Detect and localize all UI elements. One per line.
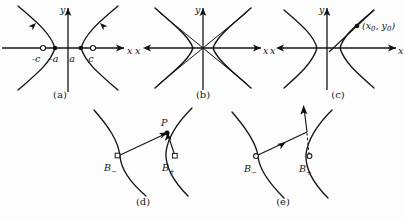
- y-axis-b: [200, 8, 207, 90]
- x-axis-label-left-c: x: [270, 45, 276, 56]
- focus-plus-marker-e: [307, 154, 312, 159]
- x-axis-label-right-b: x: [263, 45, 269, 56]
- focus-minus-label-e: B−: [243, 163, 257, 177]
- point-p-label-d: P: [160, 117, 168, 128]
- figure-root: x y -c -a a c (a): [0, 0, 405, 220]
- tangent-point-label-c: (x0, y0): [362, 20, 395, 33]
- panel-e: B− B+: [228, 104, 378, 200]
- point-p-marker-d: [165, 131, 170, 136]
- panel-caption-e: (e): [263, 196, 303, 207]
- y-axis-label-b: y: [194, 4, 201, 15]
- y-axis-c: [324, 8, 331, 90]
- x-axis-label-left-b: x: [135, 45, 141, 56]
- focus-minus-label-d: B−: [103, 162, 117, 176]
- branch-arrow-left-a: [28, 23, 36, 31]
- panel-b: x x y: [135, 0, 270, 95]
- x-axis-a: [2, 45, 124, 52]
- y-axis-label-a: y: [59, 4, 66, 15]
- panel-caption-c: (c): [318, 89, 358, 100]
- x-axis-b: [143, 45, 261, 52]
- focus-plus-marker-d: [173, 153, 178, 158]
- svg-text:(x0, y0): (x0, y0): [362, 20, 395, 33]
- tangent-line-c: [329, 10, 374, 52]
- focus-minus-marker-e: [254, 154, 259, 159]
- focus-right-label-a: c: [88, 53, 94, 64]
- panel-caption-a: (a): [40, 89, 80, 100]
- vertex-left-marker-a: [53, 46, 58, 51]
- branch-arrow-right-a: [100, 23, 108, 31]
- y-axis-a: [65, 8, 72, 92]
- focus-left-label-a: -c: [32, 53, 41, 64]
- panel-caption-b: (b): [183, 89, 223, 100]
- panel-caption-d: (d): [123, 196, 163, 207]
- focus-plus-label-e: B+: [298, 163, 312, 177]
- focus-left-marker-a: [41, 46, 46, 51]
- focus-minus-marker-d: [115, 153, 120, 158]
- x-axis-label-a: x: [127, 45, 133, 56]
- hyperbola-right-branch-d: [166, 108, 192, 196]
- reflected-ray-arrow-e: [300, 105, 307, 115]
- panel-a: x y -c -a a c: [0, 0, 135, 95]
- y-axis-label-c: y: [318, 4, 325, 15]
- panel-d: P B− B+: [88, 104, 238, 200]
- panel-c: (x0, y0) x x y: [270, 0, 405, 95]
- x-axis-label-right-c: x: [398, 45, 404, 56]
- vertex-right-marker-a: [79, 46, 84, 51]
- focus-right-marker-a: [91, 46, 96, 51]
- tangent-point-marker-c: [355, 24, 360, 29]
- segment-focus-minus-to-p-d: [118, 134, 165, 156]
- vertex-right-label-a: a: [69, 53, 75, 64]
- focus-plus-label-d: B+: [161, 162, 175, 176]
- hyperbola-left-branch-c: [284, 10, 317, 88]
- vertex-left-label-a: -a: [50, 53, 59, 64]
